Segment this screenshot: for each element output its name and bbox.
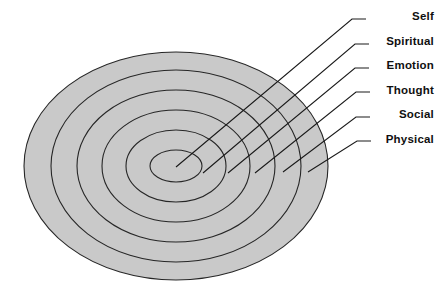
ring-label-physical: Physical (386, 133, 434, 146)
ring-label-social: Social (399, 108, 434, 121)
ring-label-spiritual: Spiritual (386, 35, 434, 48)
ring-label-self: Self (412, 10, 434, 23)
ring-label-thought: Thought (387, 84, 434, 97)
concentric-levels-diagram: Self Spiritual Emotion Thought Social Ph… (0, 0, 444, 304)
label-layer: Self Spiritual Emotion Thought Social Ph… (0, 0, 444, 304)
ring-label-emotion: Emotion (387, 59, 434, 72)
